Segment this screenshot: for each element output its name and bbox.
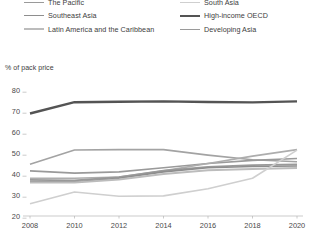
series-line-high-income-oecd [30,101,297,113]
legend-item[interactable]: South Asia [168,0,314,9]
legend-item-label: High-income OECD [204,11,268,20]
y-tick-label: 30 [12,191,20,200]
y-tick-label: 80 [12,86,20,95]
legend-item[interactable]: Developing Asia [168,22,314,36]
y-tick-label: 60 [12,128,20,137]
x-tick-label: 2020 [289,221,305,230]
x-tick-label: 2016 [200,221,216,230]
legend-swatch-icon [24,28,44,30]
legend-item[interactable]: High-income OECD [168,9,314,23]
series-line-south-asia [30,150,297,204]
legend-item-label: Developing Asia [204,25,256,34]
y-tick-label: 40 [12,170,20,179]
x-axis-ticks: 2008201020122014201620182020 [22,216,305,230]
x-tick-label: 2014 [155,221,171,230]
x-tick-label: 2008 [22,221,38,230]
legend-column-left: Caucasus and Central AsiaThe PacificSout… [0,0,168,36]
legend-item-label: The Pacific [48,0,84,7]
chart-screenshot: Caucasus and Central AsiaThe PacificSout… [0,0,314,239]
x-tick-label: 2010 [66,221,82,230]
legend-item[interactable]: The Pacific [0,0,168,9]
y-tick-label: 50 [12,149,20,158]
x-tick-label: 2018 [244,221,260,230]
legend-item[interactable]: Latin America and the Caribbean [0,22,168,36]
chart-legend: Caucasus and Central AsiaThe PacificSout… [0,2,314,58]
x-tick-label: 2012 [111,221,127,230]
series-lines [30,101,297,203]
legend-item-label: Southeast Asia [48,11,97,20]
series-line-east-asia [30,150,297,165]
legend-swatch-icon [180,2,200,3]
y-axis-title: % of pack price [5,64,54,71]
legend-item-label: South Asia [204,0,239,7]
legend-column-right: East AsiaSouth AsiaHigh-income OECDDevel… [168,0,314,36]
legend-swatch-icon [24,15,44,16]
legend-item-label: Latin America and the Caribbean [48,25,154,34]
y-axis-ticks: 20304050607080 [12,86,27,221]
legend-swatch-icon [180,29,200,30]
plot-area: 20304050607080 2008201020122014201620182… [0,74,314,239]
y-tick-label: 70 [12,107,20,116]
legend-swatch-icon [24,2,44,3]
line-chart-svg: 20304050607080 2008201020122014201620182… [0,74,314,239]
y-tick-label: 20 [12,212,20,221]
legend-item[interactable]: Southeast Asia [0,9,168,23]
legend-swatch-icon [180,15,200,17]
